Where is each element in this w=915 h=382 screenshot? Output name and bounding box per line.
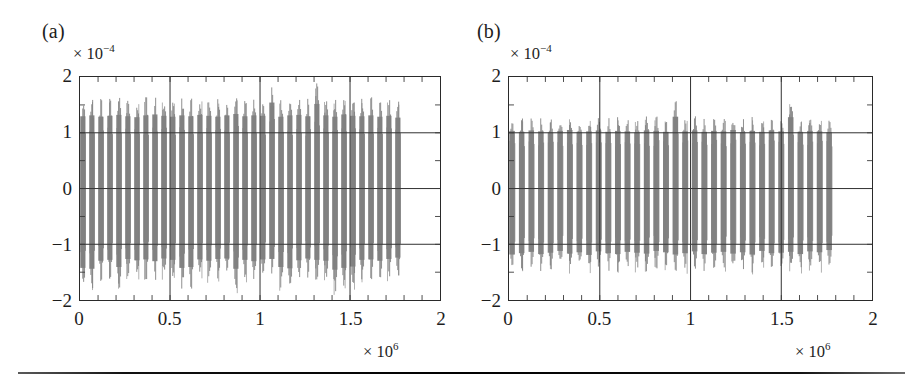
panel-a-plot-area [79, 76, 441, 301]
panel-a: (a) × 10−4 2 1 0 −1 −2 0 0.5 1 1.5 2 × 1… [0, 0, 460, 382]
panel-b-waveform [509, 77, 872, 300]
panel-b-xtick-1.5: 1.5 [770, 308, 794, 330]
panel-b-ytick-neg1: −1 [466, 234, 501, 256]
panel-b-y-multiplier-exponent: −4 [540, 42, 552, 54]
panel-b-x-multiplier: × 106 [795, 340, 830, 362]
panel-a-ytick-0: 0 [44, 178, 72, 200]
panel-a-xtick-0.5: 0.5 [158, 308, 182, 330]
panel-b-ytick-1: 1 [473, 121, 501, 143]
panel-b-label: (b) [477, 20, 501, 43]
two-panel-waveform-figure: (a) × 10−4 2 1 0 −1 −2 0 0.5 1 1.5 2 × 1… [0, 0, 915, 382]
panel-b-y-multiplier-prefix: × 10 [510, 44, 540, 63]
panel-a-xtick-0: 0 [74, 308, 84, 330]
panel-b-y-multiplier: × 10−4 [510, 42, 552, 64]
panel-a-xtick-2: 2 [436, 308, 446, 330]
panel-b-xtick-1: 1 [686, 308, 696, 330]
panel-a-xtick-1: 1 [255, 308, 265, 330]
panel-b-xtick-2: 2 [868, 308, 878, 330]
panel-a-y-multiplier-exponent: −4 [103, 42, 115, 54]
panel-b: (b) × 10−4 2 1 0 −1 −2 0 0.5 1 1.5 2 × 1… [455, 0, 915, 382]
panel-a-x-multiplier: × 106 [363, 340, 398, 362]
panel-a-ytick-neg1: −1 [37, 234, 72, 256]
panel-b-ytick-0: 0 [473, 178, 501, 200]
panel-b-ytick-2: 2 [473, 65, 501, 87]
panel-a-ytick-neg2: −2 [37, 290, 72, 312]
page-footer-rule [18, 372, 905, 374]
panel-b-xtick-0.5: 0.5 [587, 308, 611, 330]
panel-b-plot-area [508, 76, 873, 301]
panel-a-ytick-2: 2 [44, 65, 72, 87]
panel-a-y-multiplier-prefix: × 10 [73, 44, 103, 63]
panel-b-x-multiplier-exponent: 6 [825, 340, 831, 352]
panel-b-ytick-neg2: −2 [466, 290, 501, 312]
panel-a-ytick-1: 1 [44, 121, 72, 143]
panel-a-waveform [80, 77, 440, 300]
panel-a-y-multiplier: × 10−4 [73, 42, 115, 64]
panel-a-xtick-1.5: 1.5 [339, 308, 363, 330]
panel-a-x-multiplier-exponent: 6 [393, 340, 399, 352]
panel-b-x-multiplier-prefix: × 10 [795, 342, 825, 361]
panel-a-label: (a) [42, 20, 65, 43]
panel-b-xtick-0: 0 [503, 308, 513, 330]
panel-a-x-multiplier-prefix: × 10 [363, 342, 393, 361]
